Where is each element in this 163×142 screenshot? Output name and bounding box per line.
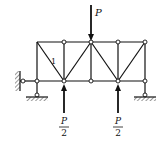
joint: [116, 40, 120, 44]
joint: [89, 79, 93, 83]
diagonal-member: [64, 42, 91, 81]
reaction-arrow-right: P 2: [113, 84, 123, 138]
right-roller-support: [134, 81, 156, 101]
joint: [143, 79, 147, 83]
member-label-1: 1: [51, 57, 56, 66]
load-arrow-p: P: [88, 5, 102, 41]
reaction-left-denominator: 2: [61, 128, 67, 138]
reaction-arrow-left: P 2: [59, 84, 69, 138]
diagonal-member: [91, 42, 118, 81]
joint: [143, 40, 147, 44]
joint: [62, 40, 66, 44]
reaction-left-numerator: P: [60, 116, 68, 126]
joint: [62, 79, 66, 83]
load-label-p: P: [94, 7, 102, 18]
reaction-right-denominator: 2: [115, 128, 121, 138]
reaction-right-numerator: P: [114, 116, 122, 126]
left-wall-support: [15, 71, 37, 91]
left-roller-support: [26, 81, 48, 101]
truss-diagram: P P 2 P 2 1: [0, 0, 163, 142]
diagonal-member: [118, 42, 145, 81]
joint: [35, 79, 39, 83]
joint: [116, 79, 120, 83]
